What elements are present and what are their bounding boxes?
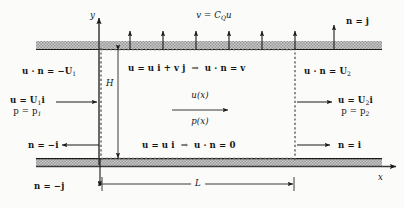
interior-pressure-field-label: p(x) (191, 116, 208, 126)
top-wall-condition-label: v = CQu (196, 10, 231, 21)
height-dimension-label: H (106, 78, 114, 88)
bottom-velocity-implies-arrow: ⇒ (175, 140, 194, 150)
inlet-flux-expression: u · n = −U (22, 66, 72, 76)
top-velocity-implies-arrow: ⇒ (186, 63, 205, 73)
bottom-wall (36, 159, 382, 167)
outlet-pressure-subscript: 2 (365, 109, 369, 116)
inlet-velocity-label: u = U1i (10, 95, 45, 106)
inlet-flux-label: u · n = −U1 (22, 66, 76, 77)
bottom-velocity-decomp: u = u i (142, 140, 175, 150)
axis-x-label: x (378, 172, 383, 182)
axis-y-label: y (90, 10, 95, 20)
outlet-pressure-expression: p = p (341, 106, 365, 116)
bottom-velocity-decomposition-label: u = u i⇒u · n = 0 (142, 140, 236, 150)
bottom-velocity-result: u · n = 0 (194, 140, 236, 150)
control-volume-diagram: y x v = CQu n = j u · n = −U1 u = u i + … (0, 0, 404, 208)
top-velocity-result: u · n = v (205, 63, 246, 73)
top-wall-condition-tail: u (226, 10, 232, 20)
inlet-pressure-subscript: 1 (37, 109, 41, 116)
inlet-flux-subscript: 1 (72, 70, 76, 77)
inlet-conditions-label: u = U1i p = p1 (10, 95, 45, 116)
top-normal-label: n = j (346, 16, 369, 26)
left-normal-label: n = −i (28, 140, 59, 150)
outlet-velocity-expression: u = U (338, 95, 365, 105)
outlet-flux-label: u · n = U2 (304, 66, 351, 77)
outlet-pressure-label: p = p2 (338, 106, 373, 117)
inlet-velocity-expression: u = U (10, 95, 37, 105)
outlet-flux-expression: u · n = U (304, 66, 347, 76)
length-dimension-label: L (191, 178, 205, 188)
outlet-velocity-label: u = U2i (338, 95, 373, 106)
inlet-pressure-expression: p = p (13, 106, 37, 116)
top-velocity-decomposition-label: u = u i + v j⇒u · n = v (128, 63, 245, 73)
interior-velocity-field-label: u(x) (191, 90, 209, 100)
top-velocity-decomp: u = u i + v j (128, 63, 186, 73)
outlet-velocity-tail: i (369, 95, 372, 105)
inlet-pressure-label: p = p1 (10, 106, 45, 117)
top-wall-condition-main: v = C (196, 10, 221, 20)
outlet-conditions-label: u = U2i p = p2 (338, 95, 373, 116)
top-wall (36, 41, 382, 50)
right-normal-label: n = i (338, 140, 361, 150)
outlet-flux-subscript: 2 (347, 70, 351, 77)
bottom-normal-label: n = −j (34, 181, 64, 191)
inlet-velocity-tail: i (41, 95, 44, 105)
